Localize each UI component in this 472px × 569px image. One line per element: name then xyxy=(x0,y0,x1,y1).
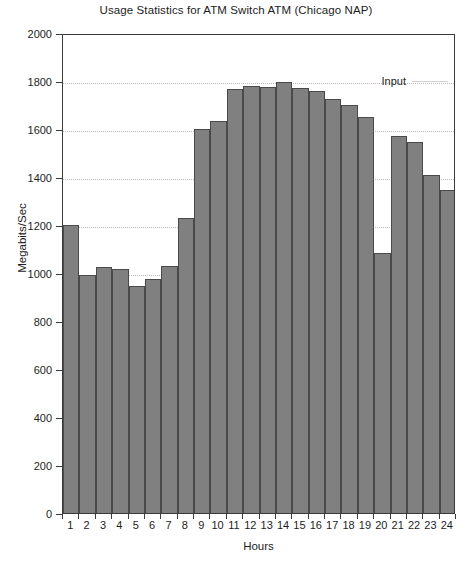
x-tick-label-13: 13 xyxy=(259,519,275,531)
bar-hour-19 xyxy=(358,117,374,513)
bar-hour-11 xyxy=(227,89,243,513)
x-tick-mark xyxy=(455,514,456,519)
bar-series-input xyxy=(63,35,454,513)
usage-statistics-bar-chart: Usage Statistics for ATM Switch ATM (Chi… xyxy=(0,0,472,569)
bar-hour-17 xyxy=(325,99,341,513)
x-tick-label-6: 6 xyxy=(144,519,160,531)
bar-hour-9 xyxy=(194,129,210,513)
bar-hour-5 xyxy=(129,286,145,513)
x-tick-label-3: 3 xyxy=(95,519,111,531)
bar-hour-12 xyxy=(243,86,259,513)
x-tick-label-22: 22 xyxy=(406,519,422,531)
bar-hour-23 xyxy=(423,175,439,513)
plot-area: Input xyxy=(62,34,455,514)
x-tick-label-15: 15 xyxy=(291,519,307,531)
bar-hour-21 xyxy=(391,136,407,513)
y-tick-label: 1600 xyxy=(28,124,56,136)
bar-hour-1 xyxy=(63,225,79,513)
x-axis: 123456789101112131415161718192021222324 xyxy=(62,514,455,536)
y-tick-label: 200 xyxy=(34,460,56,472)
legend: Input xyxy=(382,75,448,87)
bar-hour-7 xyxy=(161,266,177,513)
bar-hour-2 xyxy=(79,275,95,513)
bar-hour-20 xyxy=(374,253,390,513)
x-tick-label-20: 20 xyxy=(373,519,389,531)
y-tick-label: 1800 xyxy=(28,76,56,88)
y-tick-label: 600 xyxy=(34,364,56,376)
x-tick-label-9: 9 xyxy=(193,519,209,531)
x-tick-label-12: 12 xyxy=(242,519,258,531)
bar-hour-3 xyxy=(96,267,112,513)
bar-hour-22 xyxy=(407,142,423,513)
y-tick-label: 0 xyxy=(46,508,56,520)
x-tick-label-10: 10 xyxy=(209,519,225,531)
x-tick-label-8: 8 xyxy=(177,519,193,531)
bar-hour-10 xyxy=(210,121,226,513)
y-axis: 0200400600800100012001400160018002000 xyxy=(0,34,62,514)
bar-hour-18 xyxy=(341,105,357,513)
x-tick-label-19: 19 xyxy=(357,519,373,531)
x-tick-label-1: 1 xyxy=(62,519,78,531)
x-tick-label-18: 18 xyxy=(340,519,356,531)
x-tick-label-4: 4 xyxy=(111,519,127,531)
y-tick-label: 400 xyxy=(34,412,56,424)
x-tick-label-16: 16 xyxy=(308,519,324,531)
legend-line-icon xyxy=(412,81,448,82)
x-tick-label-5: 5 xyxy=(128,519,144,531)
x-tick-label-24: 24 xyxy=(439,519,455,531)
x-tick-label-21: 21 xyxy=(390,519,406,531)
bar-hour-15 xyxy=(292,88,308,513)
chart-title: Usage Statistics for ATM Switch ATM (Chi… xyxy=(0,4,472,16)
bar-hour-13 xyxy=(260,87,276,513)
x-tick-label-11: 11 xyxy=(226,519,242,531)
x-tick-label-2: 2 xyxy=(78,519,94,531)
bar-hour-6 xyxy=(145,279,161,513)
x-axis-label: Hours xyxy=(62,540,455,552)
y-tick-label: 1400 xyxy=(28,172,56,184)
bar-hour-16 xyxy=(309,91,325,513)
y-tick-label: 800 xyxy=(34,316,56,328)
y-tick-label: 1000 xyxy=(28,268,56,280)
x-tick-label-17: 17 xyxy=(324,519,340,531)
legend-label-input: Input xyxy=(382,75,406,87)
bar-hour-24 xyxy=(440,190,455,513)
bar-hour-8 xyxy=(178,218,194,513)
bar-hour-14 xyxy=(276,82,292,513)
y-tick-label: 2000 xyxy=(28,28,56,40)
y-tick-label: 1200 xyxy=(28,220,56,232)
x-tick-label-14: 14 xyxy=(275,519,291,531)
x-tick-label-7: 7 xyxy=(160,519,176,531)
x-tick-label-23: 23 xyxy=(422,519,438,531)
y-axis-label: Megabits/Sec xyxy=(16,178,28,298)
bar-hour-4 xyxy=(112,269,128,513)
